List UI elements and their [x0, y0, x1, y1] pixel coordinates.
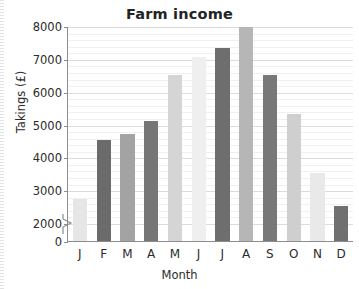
x-axis-tick-label: S	[266, 247, 274, 261]
y-axis-tick-label: 6000	[33, 86, 62, 100]
x-axis-tick-label: J	[197, 247, 201, 261]
y-axis-label: Takings (£)	[14, 47, 28, 157]
x-axis-tick-label: M	[122, 247, 132, 261]
y-axis-break-icon	[60, 213, 76, 237]
bar-february	[97, 140, 111, 242]
y-axis-tick-label: 8000	[33, 20, 62, 34]
x-axis-tick-label: J	[78, 247, 82, 261]
x-axis-tick-label: N	[313, 247, 322, 261]
y-axis-tick-label: 7000	[33, 53, 62, 67]
y-axis-tick-mark	[64, 27, 68, 28]
y-axis-tick-mark	[64, 191, 68, 192]
x-axis-tick-label: F	[100, 247, 107, 261]
y-axis-tick-mark	[64, 93, 68, 94]
y-axis-tick-mark	[64, 158, 68, 159]
y-axis-tick-label: 3000	[33, 184, 62, 198]
bar-september	[263, 75, 277, 242]
bar-october	[287, 114, 301, 242]
x-axis-tick-label: J	[221, 247, 225, 261]
bar-march	[120, 134, 134, 242]
x-axis-tick-label: O	[289, 247, 298, 261]
bar-april	[144, 121, 158, 242]
y-axis-tick-label: 2000	[33, 217, 62, 231]
bar-series	[68, 27, 353, 242]
plot-area: 02000300040005000600070008000JFMAMJJASON…	[68, 27, 353, 242]
y-axis-tick-label: 4000	[33, 151, 62, 165]
x-axis-line	[67, 241, 353, 242]
scan-edge-artifact	[0, 0, 4, 289]
bar-july	[215, 48, 229, 242]
bar-november	[310, 173, 324, 242]
y-axis-tick-label: 0	[55, 235, 62, 249]
x-axis-label: Month	[0, 268, 359, 282]
bar-may	[168, 75, 182, 242]
y-axis-tick-mark	[64, 224, 68, 225]
y-axis-tick-mark	[64, 242, 68, 243]
bar-june	[192, 57, 206, 242]
y-axis-tick-label: 5000	[33, 119, 62, 133]
y-axis-tick-mark	[64, 60, 68, 61]
bar-december	[334, 206, 348, 242]
x-axis-tick-label: A	[242, 247, 250, 261]
x-axis-tick-label: D	[337, 247, 346, 261]
x-axis-tick-label: M	[170, 247, 180, 261]
bar-august	[239, 27, 253, 242]
y-axis-tick-mark	[64, 126, 68, 127]
x-axis-tick-label: A	[147, 247, 155, 261]
